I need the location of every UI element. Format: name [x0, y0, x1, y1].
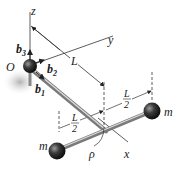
main-rod: [30, 68, 106, 131]
b1-label: b1: [35, 82, 45, 98]
left-mass-sphere: [49, 143, 66, 160]
b2-label: b2: [47, 62, 57, 78]
L-label: L: [70, 54, 78, 68]
y-axis-label: y: [107, 33, 114, 47]
right-mass-sphere: [144, 103, 161, 120]
z-axis-label: z: [30, 4, 36, 18]
x-axis-label: x: [123, 147, 130, 161]
half-L-right-den: 2: [124, 99, 129, 110]
b3-label: b3: [16, 42, 26, 58]
left-mass-label: m: [39, 139, 48, 153]
rho-label: ρ: [88, 147, 95, 161]
half-L-right-num: L: [123, 88, 130, 99]
pivot-O-sphere: [23, 59, 37, 73]
half-L-left-num: L: [71, 112, 78, 123]
right-mass-label: m: [164, 105, 173, 119]
rigid-body-diagram: z y x L L 2 L 2 ρ O b3 b2 b1 m: [0, 0, 181, 170]
L-dim-start-arrow: [32, 27, 60, 50]
origin-label: O: [6, 60, 15, 74]
b2-vector: [35, 60, 44, 63]
half-L-left-den: 2: [72, 123, 77, 134]
